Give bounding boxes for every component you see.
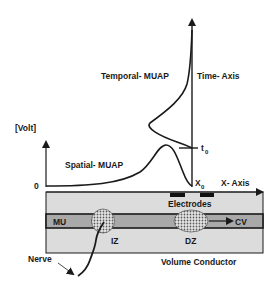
cv-label: CV bbox=[235, 217, 247, 227]
temporal-muap-label: Temporal- MUAP bbox=[101, 71, 169, 81]
electrode-left bbox=[170, 193, 185, 197]
volume-conductor-label: Volume Conductor bbox=[161, 257, 237, 267]
t0-subscript: 0 bbox=[205, 149, 209, 155]
time-axis-label: Time- Axis bbox=[197, 71, 240, 81]
zero-label: 0 bbox=[34, 181, 39, 191]
nerve-label: Nerve bbox=[28, 254, 52, 264]
electrodes-label: Electrodes bbox=[168, 199, 212, 209]
x-axis-label: X- Axis bbox=[221, 178, 250, 188]
depolarization-zone bbox=[174, 210, 208, 232]
spatial-muap-label: Spatial- MUAP bbox=[65, 160, 123, 170]
electrode-right bbox=[200, 193, 214, 197]
x0-subscript: 0 bbox=[201, 184, 205, 190]
dz-label: DZ bbox=[185, 236, 196, 246]
temporal-muap-curve bbox=[149, 30, 192, 148]
iz-label: IZ bbox=[111, 236, 119, 246]
volt-axis-label: [Volt] bbox=[15, 123, 36, 133]
nerve-pointer-arrow bbox=[58, 263, 73, 274]
innervation-zone bbox=[92, 209, 115, 233]
mu-label: MU bbox=[53, 217, 66, 227]
t0-label: t bbox=[201, 143, 204, 153]
muap-diagram: Temporal- MUAP Time- Axis [Volt] Spatial… bbox=[0, 0, 278, 291]
